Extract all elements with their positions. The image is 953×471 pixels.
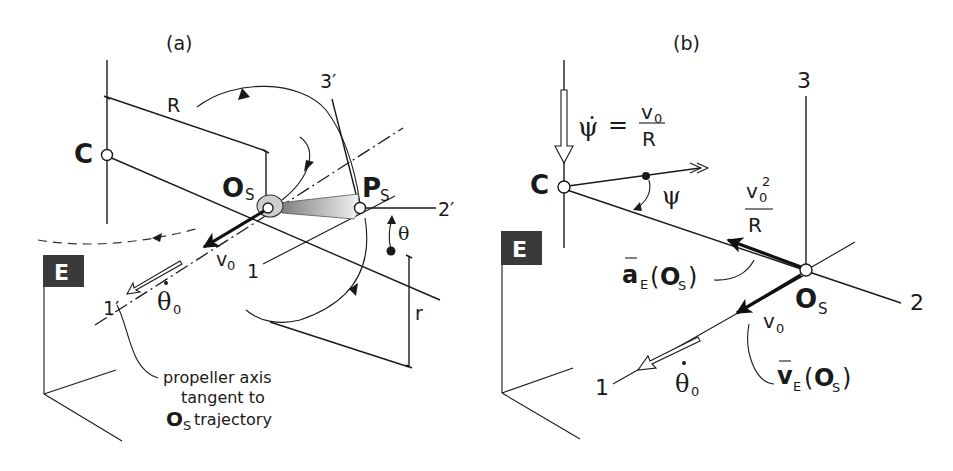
vel-sub: E xyxy=(793,379,801,394)
fraction-denominator-r: R xyxy=(642,127,656,151)
theta-dot-label: θ xyxy=(675,370,689,398)
psi-label: ψ xyxy=(662,182,681,210)
arc-arrow-icon xyxy=(238,88,250,100)
theta-dot-sub: 0 xyxy=(691,384,699,399)
blade-tip-label-sub: S xyxy=(380,187,390,205)
radius-label: R xyxy=(167,94,180,116)
velocity-arrow-v0 xyxy=(204,211,264,247)
theta-label: θ xyxy=(398,222,409,244)
arc-arrow-icon-3 xyxy=(349,283,358,296)
psi-dot-label: ψ̇ xyxy=(578,112,598,142)
centripetal-denominator-r: R xyxy=(748,213,762,237)
annotation-line-3: trajectory xyxy=(194,410,272,429)
fraction-numerator-sub: 0 xyxy=(654,111,662,126)
panel-a: (a) R C xyxy=(38,32,454,441)
annotation-leader xyxy=(117,305,158,378)
theta-arrow-icon xyxy=(387,215,396,224)
fraction-numerator-v: v xyxy=(641,100,653,124)
axis-extension xyxy=(810,242,855,268)
accel-sub: E xyxy=(640,277,648,292)
annotation-line-1: propeller axis xyxy=(163,368,272,387)
center-label-c: C xyxy=(74,139,93,169)
propeller-blade xyxy=(278,194,360,219)
axis-2-label: 2 xyxy=(910,290,924,315)
reference-dot xyxy=(387,247,396,256)
axis-1-label: 1 xyxy=(247,260,259,282)
v0-label: v xyxy=(216,248,227,270)
blade-tip-label-p: P xyxy=(362,173,381,203)
acceleration-arrow xyxy=(728,240,801,267)
panel-a-label: (a) xyxy=(166,32,192,54)
equals-sign: = xyxy=(608,111,628,139)
annotation-os-bold: O xyxy=(166,407,183,431)
theta-dot-label: θ xyxy=(157,288,171,316)
spin-rate-arrow-icon xyxy=(127,261,182,294)
hub-point-os xyxy=(800,264,812,276)
frame-e-axis-y xyxy=(44,370,116,394)
axis-2 xyxy=(809,272,901,303)
center-point-c xyxy=(102,150,113,161)
yaw-rate-arrow-icon xyxy=(555,90,573,163)
psi-arrow-icon xyxy=(633,202,642,211)
centripetal-numerator-v: v xyxy=(746,179,758,203)
dot-accent xyxy=(682,361,686,365)
velocity-leader xyxy=(748,324,774,384)
blade-tip-point-ps xyxy=(355,203,366,214)
accel-leader xyxy=(714,260,754,280)
propeller-axis-1-prime xyxy=(95,128,403,325)
v0-sub: 0 xyxy=(776,321,784,336)
vel-close-paren: ) xyxy=(842,364,851,392)
hub-label-sub: S xyxy=(245,186,255,204)
accel-symbol: a xyxy=(622,261,638,289)
reference-dot xyxy=(642,172,650,180)
panel-b: (b) ψ̇ = v 0 R C ψ v 0 2 R 3 xyxy=(501,32,924,439)
vel-symbol: v xyxy=(777,362,793,390)
accel-open-paren: ( xyxy=(650,263,659,291)
velocity-arrow xyxy=(737,275,801,313)
trajectory-arrow-icon xyxy=(152,233,162,242)
axis-1-prime-label: 1′ xyxy=(103,297,119,319)
hub-label-o: O xyxy=(795,284,817,314)
vel-arg-sub: S xyxy=(832,380,840,395)
center-label-c: C xyxy=(530,170,549,200)
axis-3-prime xyxy=(332,99,359,206)
r-dimension-line xyxy=(107,97,266,151)
vel-open-paren: ( xyxy=(804,364,813,392)
hub-label-sub: S xyxy=(818,300,828,318)
hub-point-os xyxy=(263,203,273,213)
axis-3-label: 3 xyxy=(797,68,811,93)
v0-sub: 0 xyxy=(227,258,235,273)
accel-close-paren: ) xyxy=(688,263,697,291)
rotation-arc-bottom xyxy=(246,218,367,322)
hub-label-o: O xyxy=(222,173,244,203)
axis-1-label: 1 xyxy=(595,375,609,400)
panel-b-label: (b) xyxy=(673,32,700,54)
frame-e-axis-x xyxy=(44,394,122,441)
axis-2-prime-label: 2′ xyxy=(438,198,454,220)
frame-badge-label: E xyxy=(512,237,527,262)
accel-arg-sub: S xyxy=(678,278,686,293)
v0-label: v xyxy=(763,309,775,333)
small-r-base-line xyxy=(270,322,409,367)
spin-rate-arrow-icon xyxy=(638,337,700,370)
trajectory-dashed xyxy=(38,228,200,244)
centripetal-numerator-sub: 0 xyxy=(759,190,767,205)
annotation-line-2: tangent to xyxy=(181,388,265,407)
small-r-label: r xyxy=(415,302,423,324)
theta-dot-sub: 0 xyxy=(173,302,181,317)
arc-arrow-icon-2 xyxy=(304,160,314,172)
centripetal-numerator-sup: 2 xyxy=(762,174,770,189)
frame-badge-label: E xyxy=(54,260,69,285)
figure-canvas: (a) R C xyxy=(0,0,953,471)
axis-3-prime-label: 3′ xyxy=(320,70,336,92)
dot-accent xyxy=(164,281,168,285)
frame-e-axis-x xyxy=(502,393,580,439)
center-point-c xyxy=(558,181,570,193)
frame-e-axis-y xyxy=(502,368,573,393)
radial-line xyxy=(567,190,804,270)
annotation-os-sub: S xyxy=(183,418,191,433)
